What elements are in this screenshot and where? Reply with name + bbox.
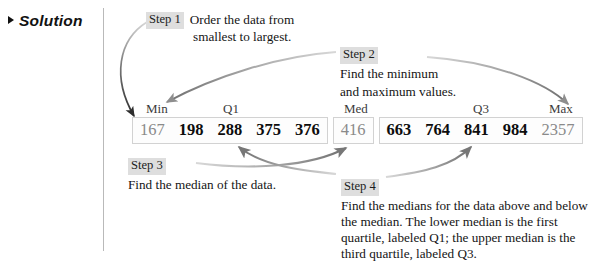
data-value: 764 [418, 122, 457, 139]
solution-heading: Solution [8, 12, 83, 30]
data-value: 167 [133, 122, 172, 139]
data-group-upper-half: 6637648419842357 [379, 117, 583, 144]
data-value: 376 [288, 122, 327, 139]
marker-label-q1: Q1 [223, 101, 239, 117]
arrow-step2-to-min [167, 52, 336, 102]
marker-label-q3: Q3 [473, 101, 489, 117]
vertical-divider [103, 8, 104, 251]
marker-label-med: Med [344, 101, 368, 117]
step-1-line-2: smallest to largest. [193, 29, 294, 45]
solution-heading-text: Solution [19, 12, 83, 29]
step-4-block: Step 4 Find the medians for the data abo… [341, 176, 597, 263]
marker-label-min: Min [146, 101, 168, 117]
triangle-right-icon [8, 16, 14, 24]
arrow-step4-to-q3 [386, 147, 471, 177]
step-2-line-1: Find the minimum [340, 66, 456, 82]
data-value: 288 [211, 122, 250, 139]
step-3-line-1: Find the median of the data. [128, 177, 276, 193]
data-value: 198 [172, 122, 211, 139]
arrow-step1-to-min [121, 22, 147, 116]
step-4-body: Find the medians for the data above and … [341, 198, 597, 263]
step-1-line-1: Order the data from [190, 12, 294, 28]
data-value: 416 [334, 122, 373, 139]
data-value: 841 [457, 122, 496, 139]
step-2-block: Step 2 Find the minimum and maximum valu… [340, 44, 456, 100]
data-group-median: 416 [333, 117, 374, 144]
step-3-tag: Step 3 [128, 158, 166, 175]
dataset-row: 1671982883753764166637648419842357 [132, 117, 583, 144]
step-4-tag: Step 4 [341, 179, 379, 196]
step-2-line-2: and maximum values. [340, 84, 456, 100]
data-group-lower-half: 167198288375376 [132, 117, 328, 144]
data-value: 663 [380, 122, 419, 139]
data-value: 375 [249, 122, 288, 139]
step-1-tag: Step 1 [146, 12, 184, 29]
step-3-block: Step 3 Find the median of the data. [128, 155, 276, 193]
step-1-block: Step 1 Order the data from smallest to l… [146, 12, 294, 45]
data-value: 2357 [535, 122, 582, 139]
step-2-tag: Step 2 [340, 47, 378, 64]
marker-label-max: Max [549, 101, 573, 117]
data-value: 984 [496, 122, 535, 139]
